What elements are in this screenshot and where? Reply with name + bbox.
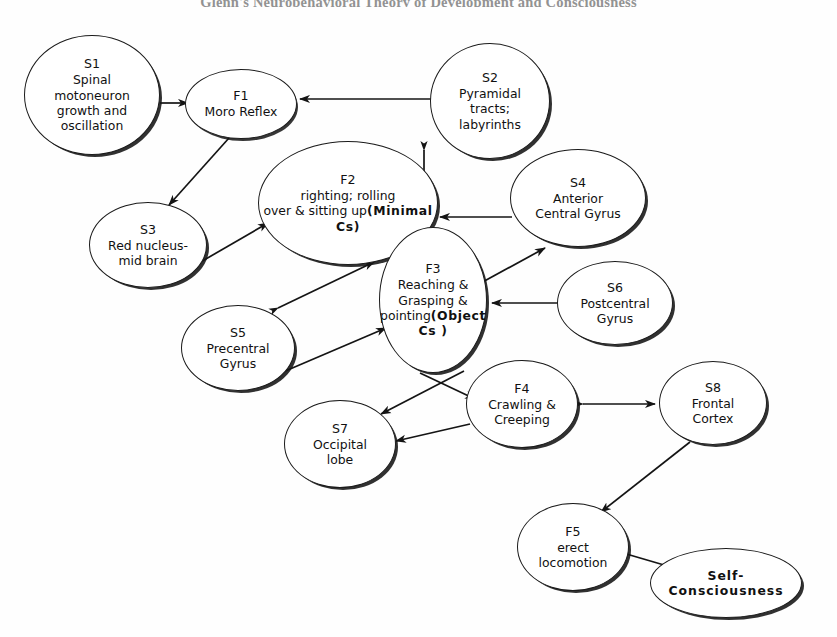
node-s3-text: Red nucleus- mid brain	[108, 238, 188, 268]
node-f1-label: F1	[205, 88, 278, 104]
node-s4[interactable]: S4Anterior Central Gyrus	[510, 149, 646, 247]
node-f5[interactable]: F5erect locomotion	[517, 503, 629, 591]
node-f4-text: Crawling & Creeping	[488, 397, 556, 427]
node-s3[interactable]: S3Red nucleus- mid brain	[89, 202, 207, 288]
diagram-canvas: Glenn's Neurobehavioral Theory of Develo…	[0, 0, 837, 637]
node-s2-label: S2	[459, 70, 521, 86]
node-f4-label: F4	[488, 381, 556, 397]
edge-f4-s7	[396, 424, 470, 441]
node-s5-text: Precentral Gyrus	[207, 341, 270, 371]
node-s4-text: Anterior Central Gyrus	[535, 191, 620, 221]
node-f2-label: F2	[263, 172, 433, 188]
node-s5[interactable]: S5Precentral Gyrus	[181, 305, 295, 391]
node-s5-label: S5	[207, 325, 270, 341]
node-s2-text: Pyramidal tracts; labyrinths	[459, 86, 521, 132]
node-f4[interactable]: F4Crawling & Creeping	[466, 360, 578, 448]
node-s1-text: Spinal motoneuron growth and oscillation	[54, 72, 130, 133]
node-s6-label: S6	[580, 280, 649, 296]
edge-f3-s7	[381, 371, 464, 414]
node-f5-text: erect locomotion	[539, 540, 608, 570]
node-s8-text: Frontal Cortex	[692, 396, 734, 426]
edge-f2-s5	[278, 262, 374, 308]
node-s8[interactable]: S8Frontal Cortex	[659, 361, 767, 445]
node-s7-text: Occipital lobe	[313, 437, 367, 467]
node-f1-text: Moro Reflex	[205, 104, 278, 119]
node-s1-label: S1	[54, 56, 130, 72]
edge-s8-f5	[601, 442, 690, 512]
node-s6[interactable]: S6Postcentral Gyrus	[557, 261, 673, 345]
node-self-consciousness-text: Self- Consciousness	[664, 568, 787, 599]
node-s3-label: S3	[108, 222, 188, 238]
node-s2[interactable]: S2Pyramidal tracts; labyrinths	[430, 43, 550, 159]
node-s7-label: S7	[313, 421, 367, 437]
node-s6-text: Postcentral Gyrus	[580, 296, 649, 326]
node-self-consciousness[interactable]: Self- Consciousness	[650, 548, 802, 618]
node-s4-label: S4	[535, 175, 620, 191]
node-f1[interactable]: F1Moro Reflex	[185, 69, 297, 139]
node-s1[interactable]: S1Spinal motoneuron growth and oscillati…	[24, 35, 160, 155]
edge-f1-s3	[169, 138, 229, 205]
node-f3-label: F3	[380, 261, 486, 277]
edge-s5-f3	[283, 328, 386, 372]
node-s7[interactable]: S7Occipital lobe	[284, 400, 396, 488]
node-f5-label: F5	[539, 524, 608, 540]
node-s8-label: S8	[692, 380, 734, 396]
node-f3[interactable]: F3Reaching & Grasping & pointing(Object …	[379, 227, 487, 373]
